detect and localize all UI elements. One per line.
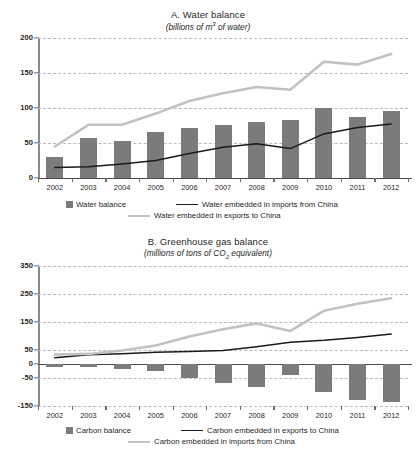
line-series-path xyxy=(55,54,391,146)
x-tick-label: 2011 xyxy=(350,411,366,420)
chart-a-plot-area: 050100150200 xyxy=(38,38,408,178)
x-tick-label: 2006 xyxy=(181,411,197,420)
x-tick-label: 2007 xyxy=(215,411,231,420)
x-tick-label: 2005 xyxy=(147,183,163,192)
x-tick-mark xyxy=(38,178,39,182)
legend-item-water-balance: Water balance xyxy=(66,200,126,209)
x-tick-mark xyxy=(139,178,140,182)
x-tick-mark xyxy=(72,178,73,182)
x-axis-baseline xyxy=(38,178,412,179)
x-tick-mark xyxy=(307,406,308,410)
legend-item-carbon-balance: Carbon balance xyxy=(66,426,131,435)
x-tick-mark xyxy=(374,406,375,410)
x-tick-label: 2008 xyxy=(248,183,264,192)
y-tick-label: -150 xyxy=(18,402,33,410)
x-tick-label: 2005 xyxy=(147,411,163,420)
chart-a-legend: Water balance Water embedded in imports … xyxy=(0,200,416,220)
y-tick-label: 100 xyxy=(20,104,33,112)
line-series-path xyxy=(55,124,391,167)
legend-item-carbon-exports: Carbon embedded in exports to China xyxy=(181,426,339,435)
x-tick-mark xyxy=(72,406,73,410)
x-tick-label: 2009 xyxy=(282,411,298,420)
chart-a-subtitle-suffix: of water) xyxy=(216,22,251,32)
y-tick-label: 150 xyxy=(20,318,33,326)
y-tick-label: 150 xyxy=(20,69,33,77)
x-tick-label: 2002 xyxy=(47,411,63,420)
x-tick-label: 2006 xyxy=(181,183,197,192)
y-tick-label: 0 xyxy=(29,174,33,182)
line-series-path xyxy=(55,334,391,358)
y-tick-label: 0 xyxy=(29,360,33,368)
chart-a-line-series xyxy=(38,38,408,178)
chart-b-plot-area: -150-50050150250350 xyxy=(38,266,408,406)
y-tick-label: 50 xyxy=(25,139,33,147)
y-tick-label: -50 xyxy=(22,374,33,382)
x-tick-mark xyxy=(341,406,342,410)
x-tick-label: 2002 xyxy=(47,183,63,192)
legend-label-water-imports: Water embedded in imports from China xyxy=(202,200,338,209)
chart-b-title: B. Greenhouse gas balance xyxy=(0,230,416,247)
chart-a-subtitle: (billions of m3 of water) xyxy=(0,21,416,32)
legend-item-water-imports: Water embedded in imports from China xyxy=(176,200,338,209)
chart-a-subtitle-prefix: (billions of m xyxy=(166,22,213,32)
light-line-swatch-icon xyxy=(128,215,150,217)
x-tick-mark xyxy=(105,406,106,410)
dark-line-swatch-icon xyxy=(181,430,203,431)
x-tick-mark xyxy=(240,406,241,410)
chart-a-title: A. Water balance xyxy=(0,0,416,20)
x-tick-mark xyxy=(206,178,207,182)
x-tick-mark xyxy=(408,178,409,182)
x-tick-mark xyxy=(173,178,174,182)
x-tick-mark xyxy=(408,406,409,410)
chart-b-legend: Carbon balance Carbon embedded in export… xyxy=(0,426,416,446)
chart-b-subtitle-prefix: (millions of tons of CO xyxy=(144,248,226,258)
x-tick-mark xyxy=(374,178,375,182)
chart-b-subtitle: (millions of tons of CO2 equivalent) xyxy=(0,248,416,260)
y-tick-label: 250 xyxy=(20,290,33,298)
x-tick-mark xyxy=(273,178,274,182)
x-tick-mark xyxy=(307,178,308,182)
x-tick-mark xyxy=(240,178,241,182)
gridline xyxy=(38,406,408,407)
y-tick-label: 350 xyxy=(20,262,33,270)
x-tick-label: 2003 xyxy=(80,183,96,192)
legend-label-water-exports: Water embedded in exports to China xyxy=(154,211,281,220)
x-tick-mark xyxy=(139,406,140,410)
bar-swatch-icon xyxy=(66,427,73,434)
x-tick-label: 2004 xyxy=(114,411,130,420)
x-tick-mark xyxy=(273,406,274,410)
light-line-swatch-icon xyxy=(128,441,150,443)
legend-label-carbon-imports: Carbon embedded in imports from China xyxy=(154,437,295,446)
x-tick-mark xyxy=(105,178,106,182)
legend-label-water-balance: Water balance xyxy=(76,200,126,209)
chart-b-subtitle-suffix: equivalent) xyxy=(229,248,272,258)
x-tick-label: 2012 xyxy=(383,411,399,420)
legend-item-water-exports: Water embedded in exports to China xyxy=(128,211,281,220)
panel-greenhouse-gas-balance: B. Greenhouse gas balance (millions of t… xyxy=(0,230,416,457)
panel-water-balance: A. Water balance (billions of m3 of wate… xyxy=(0,0,416,230)
x-tick-label: 2012 xyxy=(383,183,399,192)
legend-label-carbon-exports: Carbon embedded in exports to China xyxy=(207,426,339,435)
x-tick-label: 2009 xyxy=(282,183,298,192)
dark-line-swatch-icon xyxy=(176,204,198,205)
x-tick-label: 2010 xyxy=(316,183,332,192)
x-tick-label: 2008 xyxy=(248,411,264,420)
x-tick-label: 2003 xyxy=(80,411,96,420)
x-tick-label: 2010 xyxy=(316,411,332,420)
legend-label-carbon-balance: Carbon balance xyxy=(76,426,131,435)
y-tick-label: 50 xyxy=(25,346,33,354)
chart-b-line-series xyxy=(38,266,408,406)
x-tick-mark xyxy=(341,178,342,182)
legend-item-carbon-imports: Carbon embedded in imports from China xyxy=(128,437,295,446)
x-tick-mark xyxy=(206,406,207,410)
x-tick-mark xyxy=(38,406,39,410)
x-tick-label: 2004 xyxy=(114,183,130,192)
x-tick-mark xyxy=(173,406,174,410)
line-series-path xyxy=(55,298,391,354)
y-tick-label: 200 xyxy=(20,34,33,42)
x-tick-label: 2011 xyxy=(350,183,366,192)
x-tick-label: 2007 xyxy=(215,183,231,192)
bar-swatch-icon xyxy=(66,201,73,208)
